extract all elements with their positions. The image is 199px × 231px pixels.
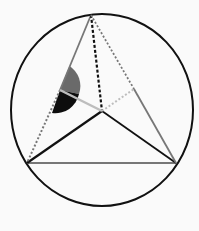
edge-apex-right-dotted <box>91 15 134 89</box>
angle-marker-upper <box>60 66 80 94</box>
edge-right-center <box>102 111 176 163</box>
edge-apex-right-lower <box>134 89 176 163</box>
segment-center-to-right-dotted <box>102 89 134 111</box>
edge-left-center <box>27 111 102 163</box>
tetrahedron-diagram <box>0 0 199 231</box>
